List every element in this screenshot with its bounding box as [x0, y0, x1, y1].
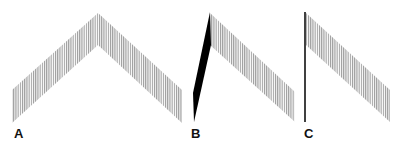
panel-a-chevron — [12, 13, 182, 123]
hatched-right-arm — [210, 13, 295, 122]
panel-b-chevron — [193, 12, 295, 122]
panel-b-label: B — [191, 126, 200, 141]
panel-a-label: A — [14, 126, 23, 141]
panel-c-label: C — [304, 126, 313, 141]
panel-c-arm — [305, 12, 390, 122]
figure-canvas — [0, 0, 402, 147]
solid-left-arm — [193, 12, 211, 122]
hatched-right-arm — [306, 13, 390, 122]
hatched-chevron — [12, 13, 182, 123]
